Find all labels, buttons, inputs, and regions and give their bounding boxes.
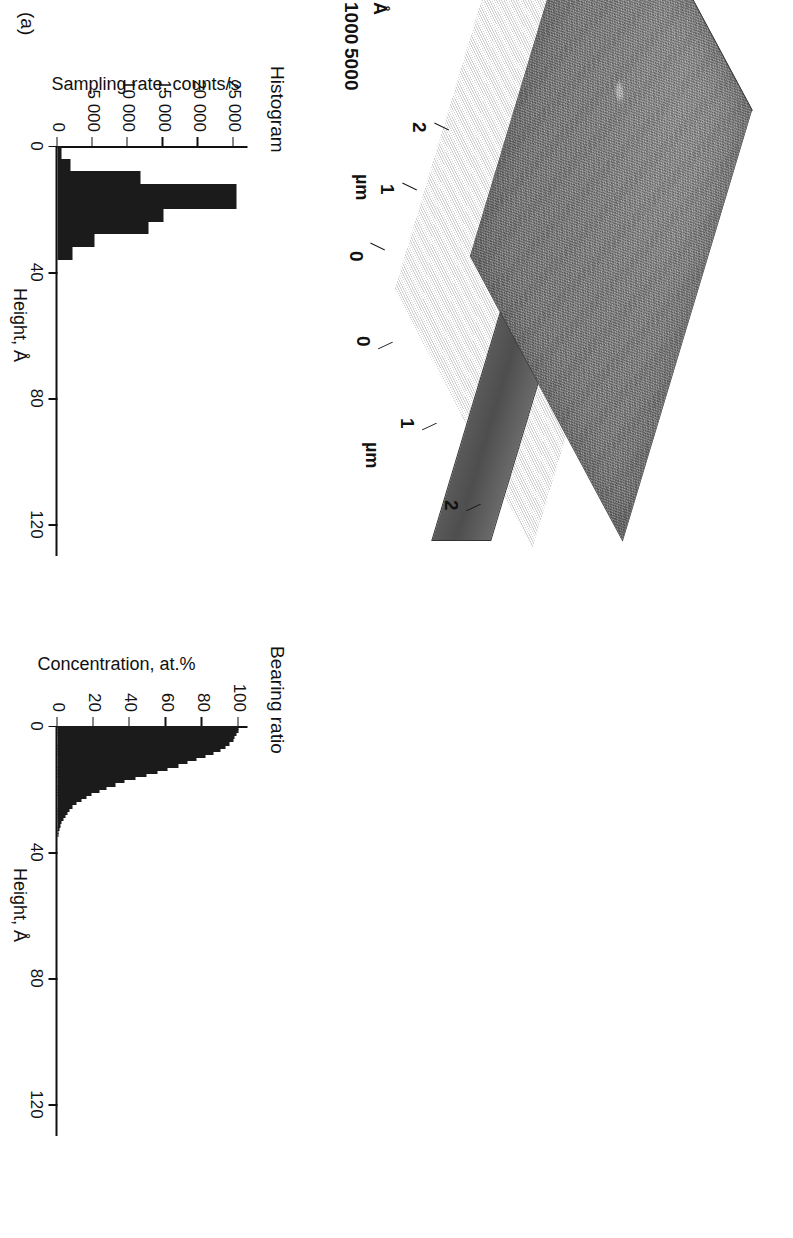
bearing-ratio-y-tick-3	[164, 717, 165, 726]
rotated-figure-wrapper: 0 1 2 µm 0 1 2 µm 0 500 1000 Å Histogram	[0, 0, 793, 1238]
afm-y-tick-label-1: 1	[375, 184, 397, 195]
histogram-x-tick-label-3: 120	[25, 498, 45, 550]
bearing-ratio-y-tick-2	[128, 717, 129, 726]
bearing-ratio-y-tick-4	[200, 717, 201, 726]
bearing-ratio-x-tick-2	[48, 978, 57, 979]
bearing-ratio-y-tick-5	[237, 717, 238, 726]
afm-y-tick-label-2: 2	[407, 122, 429, 133]
bearing-ratio-y-tick-label-4: 80	[192, 693, 212, 712]
afm-y-tick-0	[370, 243, 385, 251]
histogram-y-tick-0	[56, 137, 57, 146]
bearing-ratio-y-tick-label-2: 40	[119, 693, 139, 712]
afm-z-axis-unit-label: Å	[368, 2, 389, 15]
bearing-ratio-title: Bearing ratio	[265, 646, 287, 754]
histogram-y-tick-5	[232, 137, 233, 146]
bearing-ratio-y-tick-1	[92, 717, 93, 726]
bearing-ratio-step	[57, 833, 58, 837]
afm-z-tick-label-0: 0	[339, 80, 361, 91]
histogram-y-tick-4	[196, 137, 197, 146]
bearing-ratio-panel: Bearing ratio 04080120020406080100 Heigh…	[23, 640, 273, 1170]
bearing-ratio-y-tick-label-3: 60	[156, 693, 176, 712]
histogram-bar	[57, 146, 61, 159]
histogram-bar	[57, 247, 72, 260]
afm-surface-stage: 0 1 2 µm 0 1 2 µm 0 500 1000 Å	[315, 18, 785, 628]
histogram-y-tick-2	[126, 137, 127, 146]
histogram-y-tick-3	[161, 137, 162, 146]
histogram-y-tick-label-1: 5 000	[82, 89, 102, 132]
histogram-y-axis	[57, 146, 247, 148]
bearing-ratio-x-tick-label-3: 120	[25, 1078, 45, 1130]
histogram-bar	[57, 222, 148, 235]
afm-z-tick-label-1000: 1000	[339, 2, 361, 44]
histogram-bar	[57, 184, 236, 197]
bearing-ratio-x-tick-label-0: 0	[25, 700, 45, 752]
histogram-x-tick-1	[48, 272, 57, 273]
histogram-x-tick-label-0: 0	[25, 120, 45, 172]
afm-x-tick-label-2: 2	[439, 500, 461, 511]
bearing-ratio-x-tick-3	[48, 1104, 57, 1105]
bearing-ratio-x-tick-0	[48, 726, 57, 727]
bearing-ratio-x-tick-1	[48, 852, 57, 853]
histogram-x-tick-0	[48, 146, 57, 147]
histogram-x-axis-title: Height, Å	[8, 288, 29, 362]
afm-x-axis-unit-label: µm	[360, 442, 381, 468]
afm-y-tick-label-0: 0	[344, 251, 366, 262]
bearing-ratio-y-tick-label-0: 0	[47, 703, 67, 712]
bearing-ratio-plot-area: 04080120020406080100	[57, 726, 247, 1136]
afm-z-tick-label-500: 500	[339, 48, 361, 80]
afm-x-tick-1	[421, 423, 436, 431]
histogram-y-axis-title: Sampling rate, counts/s	[51, 74, 239, 95]
histogram-y-tick-label-0: 0	[47, 123, 67, 132]
histogram-y-tick-1	[91, 137, 92, 146]
afm-x-tick-0	[377, 342, 392, 350]
histogram-bar	[57, 171, 140, 184]
histogram-plot-area: 0408012005 00010 00015 00020 00025 000	[57, 146, 247, 556]
bearing-ratio-y-tick-label-5: 100	[228, 684, 248, 712]
figure-panel-label: (a)	[15, 12, 37, 35]
histogram-title: Histogram	[265, 66, 287, 153]
figure-a: 0 1 2 µm 0 1 2 µm 0 500 1000 Å Histogram	[0, 0, 793, 1238]
bearing-ratio-y-axis-title: Concentration, at.%	[37, 654, 195, 675]
afm-x-tick-label-1: 1	[395, 418, 417, 429]
histogram-x-tick-label-2: 80	[25, 372, 45, 424]
histogram-bar	[57, 209, 163, 222]
bearing-ratio-y-tick-label-1: 20	[83, 693, 103, 712]
histogram-bar	[57, 159, 70, 172]
histogram-panel: Histogram 0408012005 00010 00015 00020 0…	[23, 60, 273, 580]
bearing-ratio-x-tick-label-2: 80	[25, 952, 45, 1004]
histogram-bar	[57, 234, 94, 247]
afm-x-tick-label-0: 0	[351, 336, 373, 347]
afm-3d-surface: 0 1 2 µm 0 1 2 µm 0 500 1000 Å	[315, 18, 785, 628]
bearing-ratio-y-tick-0	[56, 717, 57, 726]
afm-y-axis-unit-label: µm	[350, 174, 371, 200]
histogram-x-tick-2	[48, 398, 57, 399]
bearing-ratio-x-axis-title: Height, Å	[8, 868, 29, 942]
afm-y-tick-1	[402, 183, 417, 191]
histogram-x-tick-3	[48, 524, 57, 525]
histogram-bar	[57, 196, 236, 209]
